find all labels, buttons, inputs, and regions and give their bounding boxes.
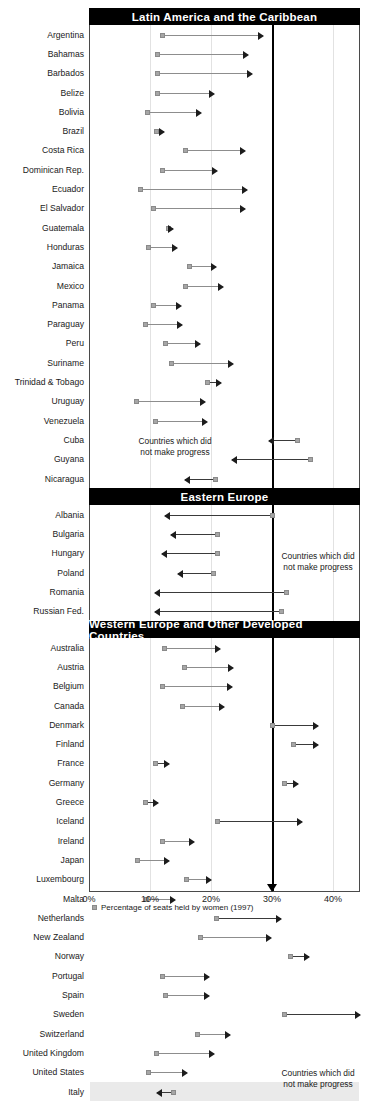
arrow-head-right-icon <box>266 934 272 942</box>
arrow-head-left-icon <box>154 589 160 597</box>
row-label-cuba: Cuba <box>63 435 84 445</box>
start-value-marker <box>180 704 185 709</box>
no-progress-note: Countries which didnot make progress <box>120 436 230 458</box>
arrow-head-right-icon <box>182 1069 188 1077</box>
start-value-marker <box>135 858 140 863</box>
section-header-label: Western Europe and Other Developed Count… <box>89 618 360 642</box>
row-label-peru: Peru <box>66 338 84 348</box>
row-label-ecuador: Ecuador <box>52 184 84 194</box>
arrow-head-right-icon <box>258 32 264 40</box>
row-label-denmark: Denmark <box>49 720 84 730</box>
change-line <box>218 821 302 822</box>
arrow-head-left-icon <box>170 531 176 539</box>
arrow-head-left-icon <box>154 608 160 616</box>
start-value-marker <box>134 399 139 404</box>
section-header-2: Western Europe and Other Developed Count… <box>89 621 360 638</box>
row-label-canada: Canada <box>54 701 84 711</box>
row-label-norway: Norway <box>55 951 84 961</box>
arrow-head-right-icon <box>211 263 217 271</box>
change-line <box>155 592 286 593</box>
arrow-head-left-icon <box>156 1089 162 1097</box>
change-line <box>166 995 209 996</box>
row-label-netherlands: Netherlands <box>38 913 84 923</box>
no-progress-note-line1: Countries which did <box>276 1068 360 1079</box>
arrow-head-right-icon <box>209 90 215 98</box>
row-label-sweden: Sweden <box>53 1009 84 1019</box>
start-value-marker <box>163 993 168 998</box>
start-value-marker <box>270 723 275 728</box>
row-label-australia: Australia <box>51 643 84 653</box>
change-line <box>162 170 217 171</box>
start-value-marker <box>291 742 296 747</box>
row-label-austria: Austria <box>57 662 84 672</box>
row-label-united-kingdom: United Kingdom <box>23 1048 84 1058</box>
arrow-head-right-icon <box>196 109 202 117</box>
start-value-marker <box>163 341 168 346</box>
start-value-marker <box>146 245 151 250</box>
arrow-head-right-icon <box>215 645 221 653</box>
row-label-greece: Greece <box>56 797 84 807</box>
start-value-marker <box>145 110 150 115</box>
change-line <box>153 208 245 209</box>
row-label-iceland: Iceland <box>56 816 84 826</box>
row-label-barbados: Barbados <box>47 68 84 78</box>
start-value-marker <box>143 800 148 805</box>
row-label-panama: Panama <box>52 300 84 310</box>
start-value-marker <box>215 532 220 537</box>
arrow-head-right-icon <box>243 51 249 59</box>
no-progress-note-line1: Countries which did <box>276 551 360 562</box>
row-label-bulgaria: Bulgaria <box>52 529 84 539</box>
arrow-head-right-icon <box>177 321 183 329</box>
row-label-paraguay: Paraguay <box>47 319 84 329</box>
start-value-marker <box>162 646 167 651</box>
arrow-head-right-icon <box>218 283 224 291</box>
start-value-marker <box>171 1090 176 1095</box>
start-value-marker <box>198 935 203 940</box>
arrow-head-left-icon <box>268 437 274 445</box>
row-label-mexico: Mexico <box>57 281 84 291</box>
legend-label: Percentage of seats held by women (1997) <box>101 903 254 912</box>
start-value-marker <box>153 419 158 424</box>
change-line <box>155 421 206 422</box>
change-line <box>183 706 224 707</box>
start-value-marker <box>138 187 143 192</box>
arrow-head-right-icon <box>313 722 319 730</box>
section-header-1: Eastern Europe <box>89 488 360 505</box>
change-line <box>272 725 318 726</box>
arrow-head-right-icon <box>228 664 234 672</box>
row-label-germany: Germany <box>49 778 84 788</box>
row-label-argentina: Argentina <box>47 30 84 40</box>
start-value-marker <box>160 684 165 689</box>
row-label-spain: Spain <box>62 990 84 1000</box>
start-value-marker <box>160 974 165 979</box>
row-label-new-zealand: New Zealand <box>33 932 84 942</box>
start-value-marker <box>288 954 293 959</box>
no-progress-note: Countries which didnot make progress <box>276 1068 360 1090</box>
arrow-head-right-icon <box>172 244 178 252</box>
start-value-marker <box>153 761 158 766</box>
no-progress-note-line2: not make progress <box>276 1079 360 1090</box>
arrow-head-right-icon <box>240 205 246 213</box>
change-line <box>155 611 281 612</box>
start-value-marker <box>187 264 192 269</box>
change-line <box>284 1014 360 1015</box>
arrow-head-right-icon <box>204 992 210 1000</box>
start-value-marker <box>160 33 165 38</box>
start-value-marker <box>151 303 156 308</box>
row-label-guatemala: Guatemala <box>42 223 84 233</box>
section-header-label: Latin America and the Caribbean <box>132 11 317 23</box>
row-label-trinidad-tobago: Trinidad & Tobago <box>15 377 84 387</box>
start-value-marker <box>169 361 174 366</box>
row-label-france: France <box>57 758 84 768</box>
arrow-head-right-icon <box>159 128 165 136</box>
arrow-head-left-icon <box>161 550 167 558</box>
arrow-head-right-icon <box>176 302 182 310</box>
arrow-head-right-icon <box>206 876 212 884</box>
change-line <box>148 112 201 113</box>
change-line <box>163 976 209 977</box>
start-value-marker <box>182 665 187 670</box>
no-progress-note-line2: not make progress <box>276 562 360 573</box>
start-value-marker <box>151 206 156 211</box>
row-label-belgium: Belgium <box>53 681 84 691</box>
row-label-russian-fed-: Russian Fed. <box>33 606 84 616</box>
